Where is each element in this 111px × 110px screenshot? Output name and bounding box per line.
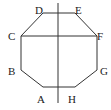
octagon-diagram: A B C D E F G H [0,0,111,110]
label-e: E [75,4,82,16]
label-a: A [37,93,45,105]
label-d: D [35,4,43,16]
label-h: H [68,93,76,105]
label-g: G [100,65,108,77]
octagon [21,13,97,87]
label-c: C [8,30,15,42]
label-f: F [97,30,103,42]
label-b: B [8,65,15,77]
